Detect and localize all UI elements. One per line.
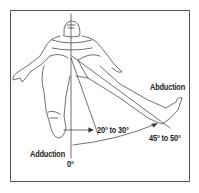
head-figure <box>64 21 80 37</box>
torso-figure <box>13 36 122 82</box>
adduction-range-line <box>71 58 98 134</box>
abducted-leg <box>76 60 182 124</box>
hip-rom-illustration <box>0 0 199 193</box>
abduction-range-line <box>72 56 170 128</box>
abduction-range-label: 45° to 50° <box>149 133 181 143</box>
straight-leg <box>42 66 70 138</box>
zero-degree-label: 0° <box>67 159 74 169</box>
adduction-label: Adduction <box>30 149 65 159</box>
abduction-label: Abduction <box>150 82 185 92</box>
adduction-arrow <box>64 128 93 132</box>
adduction-range-label: 20° to 30° <box>97 125 129 135</box>
